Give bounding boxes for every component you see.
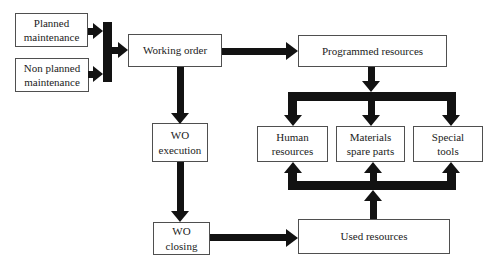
edge-working-to-programmed-shaft — [222, 48, 286, 55]
edge-planned-to-working-arrowhead — [93, 23, 103, 39]
edge-mergebar-to-working-arrowhead — [118, 42, 128, 58]
bottom-distribution-bar — [288, 181, 456, 190]
edge-programmed-to-topbar-arrowhead — [362, 81, 380, 92]
edge-topbar-to-materials-arrowhead — [362, 115, 380, 126]
edge-nonplanned-to-working-arrowhead — [93, 66, 103, 82]
edge-topbar-to-materials-shaft — [368, 101, 375, 116]
edge-working-to-execution-shaft — [177, 67, 184, 113]
edge-used-to-bottombar-shaft — [370, 200, 377, 219]
node-working-order: Working order — [128, 34, 222, 67]
edge-closing-to-used-shaft — [210, 234, 286, 241]
node-materials-spare-parts: Materials spare parts — [336, 126, 405, 162]
edge-topbar-to-human-arrowhead — [284, 115, 302, 126]
merge-bar — [103, 22, 112, 82]
edge-execution-to-closing-arrowhead — [171, 211, 189, 222]
edge-bottombar-to-special-shaft — [447, 172, 456, 181]
node-used-resources: Used resources — [298, 219, 450, 254]
edge-closing-to-used-arrowhead — [286, 229, 298, 247]
edge-topbar-to-special-shaft — [447, 101, 456, 116]
edge-topbar-to-human-shaft — [288, 101, 297, 116]
node-programmed-resources: Programmed resources — [298, 35, 447, 67]
edge-execution-to-closing-shaft — [177, 162, 184, 211]
flow-diagram: Planned maintenance Non planned maintena… — [0, 0, 500, 271]
edge-working-to-execution-arrowhead — [171, 113, 189, 124]
node-planned-maintenance: Planned maintenance — [15, 13, 88, 47]
node-non-planned-maintenance: Non planned maintenance — [15, 58, 89, 92]
node-wo-execution: WO execution — [152, 123, 208, 162]
edge-topbar-to-special-arrowhead — [442, 115, 460, 126]
top-distribution-bar — [288, 92, 456, 101]
edge-bottombar-to-materials-shaft — [370, 172, 377, 181]
edge-programmed-to-topbar-shaft — [368, 67, 375, 82]
node-special-tools: Special tools — [413, 126, 483, 162]
node-wo-closing: WO closing — [153, 222, 210, 255]
node-human-resources: Human resources — [257, 126, 328, 162]
edge-bottombar-to-human-shaft — [288, 172, 297, 181]
edge-working-to-programmed-arrowhead — [286, 42, 298, 60]
